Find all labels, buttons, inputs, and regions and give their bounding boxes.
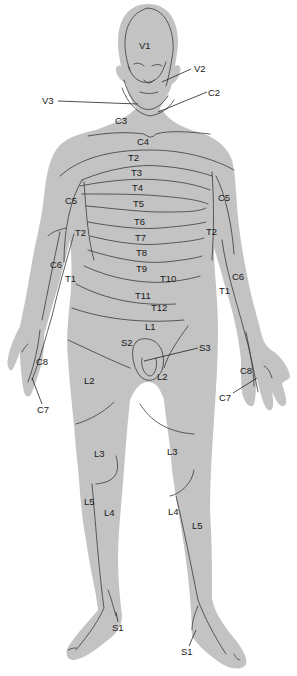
label-right-arm-t2: T2 [75,227,86,238]
label-t8: T8 [136,247,147,258]
label-right-leg-l3: L3 [94,448,105,459]
label-right-arm-c8: C8 [36,356,48,367]
label-left-leg-l4: L4 [168,506,179,517]
label-right-arm-c5: C5 [65,195,77,206]
label-left-leg-s1: S1 [181,646,193,657]
label-s3: S3 [199,342,211,353]
label-v3: V3 [42,95,54,106]
dermatome-diagram: V1 V2 V3 C2 C3 C4 T2 T3 T4 T5 T6 T7 T8 T… [0,0,297,676]
label-left-arm-t1: T1 [219,285,230,296]
label-right-leg-l4: L4 [104,507,115,518]
label-t6: T6 [134,216,145,227]
label-t11: T11 [135,290,151,301]
label-left-leg-l5: L5 [192,520,203,531]
label-right-leg-l2: L2 [84,375,95,386]
label-s2: S2 [121,337,133,348]
label-v2: V2 [194,63,206,74]
label-t2: T2 [128,152,139,163]
label-t9: T9 [136,263,147,274]
label-right-arm-t1: T1 [65,273,76,284]
label-t4: T4 [132,182,143,193]
label-left-leg-l2: L2 [157,371,168,382]
label-right-leg-l5: L5 [84,496,95,507]
label-right-arm-c6: C6 [50,259,62,270]
label-t12: T12 [151,302,167,313]
label-l1: L1 [145,321,156,332]
label-left-arm-c7: C7 [219,392,231,403]
label-t10: T10 [160,273,176,284]
label-left-arm-t2: T2 [206,226,217,237]
label-t5: T5 [133,198,144,209]
label-left-arm-c6: C6 [232,271,244,282]
label-t7: T7 [135,232,146,243]
label-left-leg-l3: L3 [167,446,178,457]
label-t3: T3 [131,167,142,178]
label-c2: C2 [208,87,220,98]
label-c3: C3 [115,115,127,126]
label-c4: C4 [137,136,149,147]
label-right-leg-s1: S1 [112,622,124,633]
label-left-arm-c5: C5 [218,192,230,203]
label-v1: V1 [139,40,151,51]
label-left-arm-c8: C8 [240,365,252,376]
label-right-arm-c7: C7 [37,404,49,415]
